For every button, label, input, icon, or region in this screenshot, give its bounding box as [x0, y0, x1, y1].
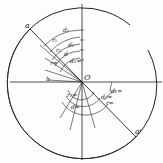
label-b: b	[46, 75, 50, 82]
label-r2-lower: r₂≈	[67, 91, 77, 98]
diagram-canvas: a a' O d₁ r₁ d₂ r₂ d d₃≈ r≈ b r₂≈ d≈ d₂≈…	[0, 0, 163, 163]
label-d-lower: d≈	[71, 103, 80, 110]
label-r2: r₂	[56, 46, 62, 53]
outer-circle-arc-top	[30, 8, 130, 29]
label-r-lower: r≈	[106, 99, 114, 106]
point-label-a-prime: a'	[135, 127, 142, 136]
radial-lines	[40, 45, 95, 130]
outer-circle-arc-right	[136, 50, 157, 137]
point-label-a: a	[25, 21, 30, 30]
label-d1: d₁	[63, 26, 69, 33]
label-d3: d₃≈	[70, 57, 81, 64]
label-d: d	[64, 50, 68, 57]
diameter-line	[30, 29, 136, 137]
center-label-o: O	[84, 73, 91, 82]
label-r: r≈	[50, 59, 58, 66]
radial-labels: d₁ r₁ d₂ r₂ d d₃≈ r≈ b r₂≈ d≈ d₂≈ r≈ d₁≈	[46, 26, 122, 110]
label-d2: d₂	[68, 41, 75, 48]
label-d1-lower: d₁≈	[111, 87, 122, 94]
label-r1: r₁	[52, 36, 57, 43]
geometric-diagram: a a' O d₁ r₁ d₂ r₂ d d₃≈ r≈ b r₂≈ d≈ d₂≈…	[0, 0, 163, 163]
